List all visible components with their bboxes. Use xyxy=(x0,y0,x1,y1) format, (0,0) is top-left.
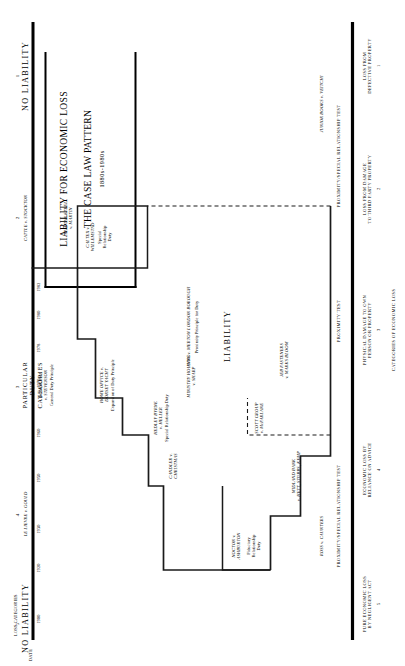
footer-category-1: LOSS FROM DEFECTIVE PROPERTY xyxy=(361,38,372,94)
footer-category-1-num: 1 xyxy=(375,65,380,67)
case-name-line: SPARTAN STEEL xyxy=(62,201,67,235)
footer-category-4-num: 4 xyxy=(375,469,380,471)
case-donoghue-sub: General Duty Principle xyxy=(48,364,53,406)
case-name-line: JUNIOR BOOKS v. VEITCHI xyxy=(318,75,323,132)
case-name-line: CANDLER v. xyxy=(167,453,172,478)
case-name-line: v. MARKS BLOOM xyxy=(283,341,288,378)
case-name-line: WILLEMSTAD xyxy=(89,223,94,252)
case-home-office-sub: Expansion of Duty Principle xyxy=(109,359,114,411)
case-name-line: DORSET YACHT xyxy=(103,368,108,401)
zone-liability: LIABILITY xyxy=(222,310,232,362)
case-home-office-dorset: HOME OFFICE v. DORSET YACHT xyxy=(98,367,109,403)
case-name-line: CHRISTMAS xyxy=(172,453,177,478)
diagram-stage: DATE 1900 1920 1930 1950 1960 1970 1978 … xyxy=(0,0,405,666)
footer-category-4: ECONOMIC LOSS BY RELIANCE ON ADVICE xyxy=(361,442,372,497)
case-name-line: CALTEX v. xyxy=(84,226,89,247)
case-nocton-sub: Fiduciary Relationship Duty xyxy=(245,535,260,558)
footer-cat-line: PERSON OR PROPERTY xyxy=(366,302,371,358)
case-donoghue-stevenson: DONOGHUE v. STEVENSON xyxy=(37,370,48,400)
case-name-line: HOME OFFICE v. xyxy=(98,367,103,403)
test-mid-label: PROXIMITY TEST xyxy=(335,300,340,342)
liability-step-graph xyxy=(0,0,405,666)
case-anns-merton: ANNS v. MERTON LONDON BOROUGH xyxy=(185,287,190,368)
footer-category-3-num: 3 xyxy=(375,329,380,331)
footer-cat-line: RELIANCE ON ADVICE xyxy=(366,442,371,497)
footer-category-2-num: 2 xyxy=(375,188,380,190)
step-boundary-path xyxy=(31,268,270,570)
case-jeb-fasteners: JEB FASTENERS v. MARKS BLOOM xyxy=(278,341,289,378)
case-name-line: ASHBURTON xyxy=(235,532,240,559)
case-sub-line: Duty xyxy=(106,233,111,242)
case-sub-line: Fiduciary xyxy=(245,537,250,554)
case-name-line: v. HETT, STUBBS, KEMP xyxy=(295,451,300,501)
case-scott-group-mcfarlane: SCOTT GROUP v. McFARLANE xyxy=(253,402,264,433)
footer-cat-line: TO THIRD PARTY PROPERTY xyxy=(366,155,371,224)
case-anns-sub: Proximity Principle for Duty xyxy=(193,301,198,353)
case-sub-line: Special Relationship Duty xyxy=(163,394,168,442)
case-name-line: v. MARTIN xyxy=(67,207,72,229)
footer-category-5: PURE ECONOMIC LOSS BY NEGLIGENT ACT xyxy=(361,576,372,632)
case-candler-christmas: CANDLER v. CHRISTMAS xyxy=(167,453,178,478)
case-caltex-willemstad: CALTEX v. WILLEMSTAD xyxy=(84,223,95,252)
case-name-line: DONOGHUE xyxy=(37,372,42,398)
case-name-line: MIDLAND BANK xyxy=(290,459,295,493)
footer-cat-line: LOSS FROM DAMAGE xyxy=(361,163,366,215)
footer-cat-line: ECONOMIC LOSS BY xyxy=(361,445,366,495)
case-sub-line: Special xyxy=(96,230,101,243)
case-sub-line: Expansion of Duty Principle xyxy=(109,359,114,411)
case-name-line: v. SHARP xyxy=(190,367,195,386)
footer-category-2: LOSS FROM DAMAGE TO THIRD PARTY PROPERTY xyxy=(361,155,372,224)
case-hedley-byrne: HEDLEY BYRNE v. HELLER xyxy=(152,401,163,435)
footer-categories-heading: CATEGORIES OF ECONOMIC LOSS xyxy=(390,289,395,372)
case-name-line: JEB FASTENERS xyxy=(278,343,283,377)
case-name-line: v. HELLER xyxy=(157,407,162,429)
case-name-line: v. McFARLANE xyxy=(258,403,263,433)
case-name-line: NOCTON v. xyxy=(230,534,235,557)
case-name-line: ANNS v. MERTON LONDON BOROUGH xyxy=(185,287,190,368)
footer-category-3: PHYSICAL DAMAGE TO OWN PERSON OR PROPERT… xyxy=(361,295,372,366)
case-sub-line: Proximity Principle for Duty xyxy=(193,301,198,353)
case-hedley-sub: Special Relationship Duty xyxy=(163,394,168,442)
case-sub-line: General Duty Principle xyxy=(48,364,53,406)
footer-cat-line: PURE ECONOMIC LOSS xyxy=(361,576,366,632)
case-sub-line: Relationship xyxy=(250,535,255,558)
diagram-canvas: DATE 1900 1920 1930 1950 1960 1970 1978 … xyxy=(0,0,405,666)
case-midland-bank-hett: MIDLAND BANK v. HETT, STUBBS, KEMP xyxy=(290,451,301,501)
footer-cat-line: BY NEGLIGENT ACT xyxy=(366,580,371,629)
footer-category-5-num: 5 xyxy=(375,603,380,605)
test-left-label: PROXIMITY/SPECIAL RELATIONSHIP TEST xyxy=(335,465,340,568)
case-sub-line: Relationship xyxy=(101,226,106,249)
case-spartan-steel-martin: SPARTAN STEEL v. MARTIN xyxy=(62,201,73,235)
test-right-label: PROXIMITY/SPECIAL RELATIONSHIP TEST xyxy=(335,105,340,208)
case-caltex-sub: Special Relationship Duty xyxy=(96,226,111,249)
case-name-line: v. STEVENSON xyxy=(42,370,47,400)
case-name-line: HEDLEY BYRNE xyxy=(152,401,157,435)
case-name-line: ROSS v. CAUNTERS xyxy=(318,516,323,556)
case-name-line: SCOTT GROUP xyxy=(253,402,258,433)
footer-cat-line: DEFECTIVE PROPERTY xyxy=(366,38,371,94)
case-sub-line: Duty xyxy=(255,542,260,551)
footer-cat-line: PHYSICAL DAMAGE TO OWN xyxy=(361,295,366,366)
footer-cat-line: LOSS FROM xyxy=(361,52,366,81)
case-junior-books-veitchi: JUNIOR BOOKS v. VEITCHI xyxy=(318,75,323,132)
case-ross-caunters: ROSS v. CAUNTERS xyxy=(318,516,323,556)
case-nocton-ashburton: NOCTON v. ASHBURTON xyxy=(230,532,241,559)
